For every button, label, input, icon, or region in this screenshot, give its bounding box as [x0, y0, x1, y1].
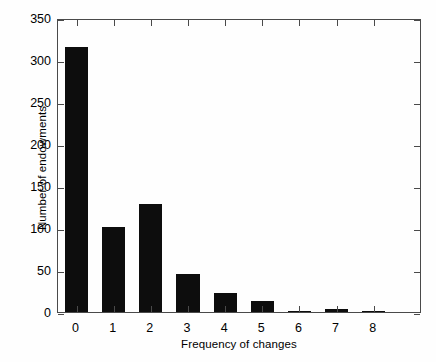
- y-tick-right-0: [414, 314, 420, 315]
- y-tick-label-150: 150: [5, 181, 51, 194]
- x-tick-top-1: [114, 20, 115, 26]
- x-tick-label-8: 8: [360, 322, 386, 335]
- x-tick-label-3: 3: [174, 322, 200, 335]
- x-tick-1: [114, 306, 115, 312]
- x-tick-top-8: [374, 20, 375, 26]
- x-tick-label-7: 7: [323, 322, 349, 335]
- x-tick-3: [188, 306, 189, 312]
- y-axis-title: Number of endowments: [36, 48, 48, 288]
- bar-1: [102, 227, 125, 312]
- x-tick-label-5: 5: [248, 322, 274, 335]
- bar-2: [139, 204, 162, 312]
- y-tick-150: [58, 188, 64, 189]
- y-tick-right-350: [414, 20, 420, 21]
- bars-layer: [58, 20, 420, 312]
- x-tick-top-7: [337, 20, 338, 26]
- y-tick-label-100: 100: [5, 223, 51, 236]
- y-tick-right-200: [414, 146, 420, 147]
- x-tick-label-1: 1: [100, 322, 126, 335]
- bar-chart-figure: Number of endowments Frequency of change…: [0, 0, 436, 362]
- x-tick-top-3: [188, 20, 189, 26]
- y-tick-300: [58, 62, 64, 63]
- y-tick-250: [58, 104, 64, 105]
- x-axis-title: Frequency of changes: [57, 338, 421, 350]
- x-tick-2: [151, 306, 152, 312]
- y-tick-label-250: 250: [5, 97, 51, 110]
- y-tick-0: [58, 314, 64, 315]
- x-tick-4: [225, 306, 226, 312]
- y-tick-label-0: 0: [5, 307, 51, 320]
- x-tick-0: [77, 306, 78, 312]
- y-tick-50: [58, 272, 64, 273]
- x-tick-8: [374, 306, 375, 312]
- y-tick-label-350: 350: [5, 13, 51, 26]
- y-tick-right-300: [414, 62, 420, 63]
- x-tick-top-5: [262, 20, 263, 26]
- y-tick-100: [58, 230, 64, 231]
- y-tick-right-50: [414, 272, 420, 273]
- plot-area: [57, 19, 421, 313]
- y-tick-right-250: [414, 104, 420, 105]
- bar-0: [65, 47, 88, 312]
- x-tick-label-6: 6: [285, 322, 311, 335]
- x-tick-6: [299, 306, 300, 312]
- x-tick-5: [262, 306, 263, 312]
- y-tick-right-150: [414, 188, 420, 189]
- x-tick-top-4: [225, 20, 226, 26]
- x-tick-top-6: [299, 20, 300, 26]
- x-tick-label-0: 0: [63, 322, 89, 335]
- x-tick-top-0: [77, 20, 78, 26]
- y-tick-200: [58, 146, 64, 147]
- y-tick-right-100: [414, 230, 420, 231]
- x-tick-7: [337, 306, 338, 312]
- y-tick-350: [58, 20, 64, 21]
- y-tick-label-50: 50: [5, 265, 51, 278]
- y-tick-label-300: 300: [5, 55, 51, 68]
- y-tick-label-200: 200: [5, 139, 51, 152]
- x-tick-label-4: 4: [211, 322, 237, 335]
- x-tick-label-2: 2: [137, 322, 163, 335]
- x-tick-top-2: [151, 20, 152, 26]
